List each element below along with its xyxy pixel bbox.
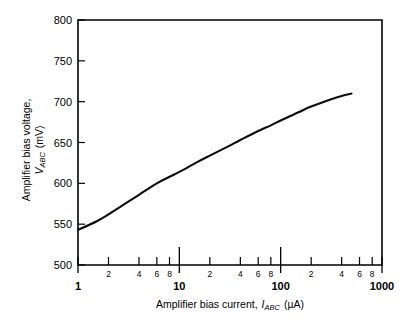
x-minor-tick-label: 8 bbox=[268, 269, 273, 279]
y-tick-label: 600 bbox=[54, 177, 72, 189]
x-minor-tick-label: 6 bbox=[256, 269, 261, 279]
chart-svg: 800750700650600550500 110100100024682468… bbox=[0, 0, 410, 324]
x-minor-tick-label: 4 bbox=[238, 269, 243, 279]
chart-figure: 800750700650600550500 110100100024682468… bbox=[0, 0, 410, 324]
y-tick-label: 550 bbox=[54, 218, 72, 230]
x-minor-tick-label: 4 bbox=[137, 269, 142, 279]
y-axis-title-line1: Amplifier bias voltage, bbox=[20, 99, 32, 202]
x-minor-tick-label: 6 bbox=[154, 269, 159, 279]
x-minor-tick-label: 8 bbox=[167, 269, 172, 279]
y-tick-label: 500 bbox=[54, 259, 72, 271]
x-minor-tick-label: 2 bbox=[207, 269, 212, 279]
x-decade-label: 100 bbox=[271, 280, 289, 292]
x-decade-label: 1 bbox=[75, 280, 81, 292]
x-minor-tick-label: 8 bbox=[370, 269, 375, 279]
y-tick-label: 750 bbox=[54, 55, 72, 67]
chart-background bbox=[0, 0, 410, 324]
y-tick-label: 650 bbox=[54, 137, 72, 149]
x-minor-tick-label: 4 bbox=[339, 269, 344, 279]
x-decade-label: 10 bbox=[173, 280, 185, 292]
x-minor-tick-label: 2 bbox=[106, 269, 111, 279]
x-minor-tick-label: 6 bbox=[357, 269, 362, 279]
x-minor-tick-label: 2 bbox=[309, 269, 314, 279]
y-tick-label: 700 bbox=[54, 96, 72, 108]
x-decade-label: 1000 bbox=[370, 280, 394, 292]
y-tick-label: 800 bbox=[54, 14, 72, 26]
x-axis-title-prefix: Amplifier bias current, bbox=[156, 298, 258, 310]
